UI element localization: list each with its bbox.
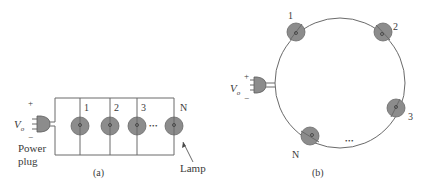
arrow-icon-lamp-callout (182, 142, 193, 162)
lamp-icon-a3 (128, 117, 146, 135)
power-plug-icon-b (250, 77, 275, 93)
lamp-icon-a2 (101, 117, 119, 135)
lamp-icon-aN (165, 117, 183, 135)
lamp-label-b1: 1 (288, 10, 293, 21)
lamp-icon-b1 (287, 23, 305, 41)
panel-b: + Vo − (230, 10, 413, 179)
plus-sign-a: + (28, 98, 33, 108)
vo-label-a: Vo (14, 118, 25, 133)
lamp-icon-a1 (71, 117, 89, 135)
lamp-label-b3: 3 (408, 111, 413, 122)
caption-b: (b) (312, 167, 324, 179)
minus-sign-a: − (28, 132, 33, 142)
lamp-icon-b2 (374, 23, 392, 41)
lamp-label-a2: 2 (114, 102, 119, 113)
lamp-icon-b3 (387, 99, 405, 117)
plug-label: plug (18, 155, 38, 167)
lamp-label-aN: N (180, 102, 187, 113)
lamp-label-bN: N (292, 149, 299, 160)
ellipsis-a: ••• (149, 122, 158, 130)
plus-sign-b: + (244, 71, 249, 81)
lamp-label-b2: 2 (393, 21, 398, 32)
figure-canvas: + Vo − Power plug (0, 0, 428, 189)
power-plug-icon-a (32, 116, 55, 132)
lamp-label-a3: 3 (141, 102, 146, 113)
lamp-callout-label: Lamp (180, 162, 206, 174)
lamp-icon-bN (301, 127, 319, 145)
caption-a: (a) (93, 167, 104, 179)
lamp-label-a1: 1 (84, 102, 89, 113)
vo-label-b: Vo (230, 82, 241, 97)
power-label: Power (18, 142, 46, 154)
minus-sign-b: − (244, 93, 249, 103)
panel-a: + Vo − Power plug (14, 98, 206, 179)
ellipsis-b: ••• (345, 137, 354, 145)
